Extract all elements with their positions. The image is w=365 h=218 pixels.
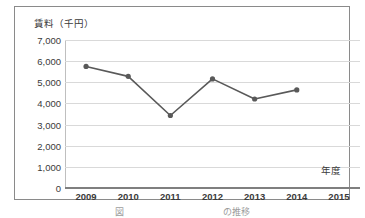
- chart-frame: 賃料（千円） 7,0006,0005,0004,0003,0002,0001,0…: [14, 6, 350, 200]
- data-point-marker: [252, 96, 257, 101]
- plot-area: [65, 40, 360, 188]
- x-axis-tick-label: 2015: [328, 191, 349, 202]
- x-axis-tick-label: 2014: [286, 191, 307, 202]
- x-axis-tick-label: 2009: [75, 191, 96, 202]
- series-polyline: [86, 66, 297, 115]
- y-axis-tick-labels: 7,0006,0005,0004,0003,0002,0001,0000: [29, 40, 61, 188]
- y-axis-tick-label: 6,000: [37, 56, 61, 67]
- data-point-marker: [83, 64, 88, 69]
- y-axis-title: 賃料（千円）: [34, 16, 94, 30]
- line-series-rent: [65, 40, 360, 188]
- y-axis-tick-label: 0: [56, 183, 61, 194]
- x-axis-tick-labels: 2009201020112012201320142015: [65, 191, 360, 205]
- x-axis-title: 年度: [321, 163, 341, 177]
- data-point-marker: [126, 74, 131, 79]
- figure-caption: 図 の推移: [0, 205, 365, 218]
- y-axis-tick-label: 4,000: [37, 98, 61, 109]
- series-markers: [83, 64, 299, 118]
- y-axis-tick-label: 2,000: [37, 140, 61, 151]
- y-axis-tick-label: 3,000: [37, 119, 61, 130]
- x-axis-tick-label: 2010: [118, 191, 139, 202]
- y-axis-tick-label: 1,000: [37, 161, 61, 172]
- figure-container: 賃料（千円） 7,0006,0005,0004,0003,0002,0001,0…: [0, 0, 365, 218]
- y-axis-tick-label: 5,000: [37, 77, 61, 88]
- x-axis-tick-label: 2013: [244, 191, 265, 202]
- data-point-marker: [294, 87, 299, 92]
- x-axis-tick-label: 2011: [160, 191, 181, 202]
- x-axis-tick-label: 2012: [202, 191, 223, 202]
- data-point-marker: [210, 76, 215, 81]
- y-axis-tick-label: 7,000: [37, 35, 61, 46]
- data-point-marker: [168, 113, 173, 118]
